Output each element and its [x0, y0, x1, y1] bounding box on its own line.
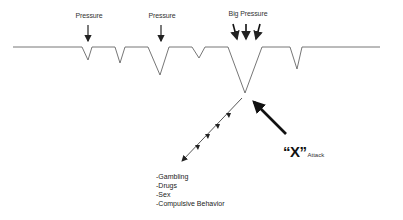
outcome-arrow-chevron-1 [226, 113, 231, 118]
outcome-item: -Gambling [156, 172, 224, 181]
pressure-label-2: Pressure [148, 12, 175, 19]
pressure-label-1: Pressure [75, 12, 102, 19]
outcome-item: -Compulsive Behavior [156, 199, 224, 208]
x-attack-word: Attack [308, 152, 325, 158]
outcome-item: -Drugs [156, 181, 224, 190]
outcome-arrow [182, 98, 242, 161]
pressure-baseline [13, 47, 380, 93]
big-pressure-label: Big Pressure [229, 10, 268, 17]
big-pressure-arrow-left [233, 24, 237, 39]
x-attack-label: “X”Attack [283, 143, 324, 161]
attack-arrow [254, 102, 286, 134]
outcome-arrow-chevron-4 [195, 145, 200, 150]
outcome-item: -Sex [156, 190, 224, 199]
outcomes-list: -Gambling -Drugs -Sex -Compulsive Behavi… [156, 172, 224, 208]
outcome-arrow-chevron-2 [215, 124, 220, 129]
big-pressure-arrow-right [256, 24, 260, 39]
x-attack-symbol: “X” [283, 143, 307, 160]
